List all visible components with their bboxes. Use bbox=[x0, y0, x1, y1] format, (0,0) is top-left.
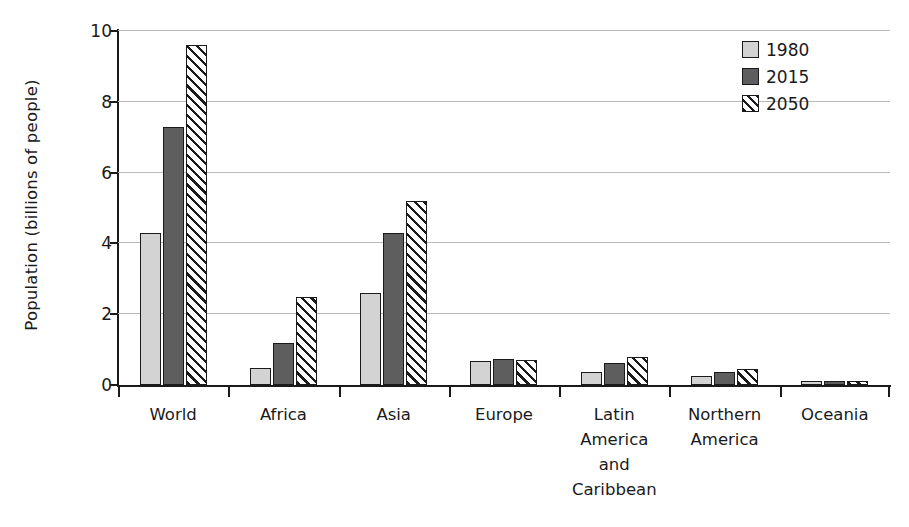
y-axis-tick-marks bbox=[0, 0, 120, 527]
bar bbox=[493, 359, 514, 385]
bar bbox=[847, 381, 868, 385]
population-bar-chart: Population (billions of people) 0246810 … bbox=[0, 0, 909, 527]
bar bbox=[406, 201, 427, 385]
x-axis-label-line: America bbox=[650, 427, 800, 452]
x-axis-label-line: Oceania bbox=[760, 402, 909, 427]
legend-swatch-icon bbox=[742, 41, 759, 58]
bar bbox=[691, 376, 712, 385]
bar bbox=[250, 368, 271, 385]
bar bbox=[627, 357, 648, 385]
bar bbox=[714, 372, 735, 385]
bar-group bbox=[228, 31, 338, 385]
legend-item: 1980 bbox=[742, 36, 892, 63]
legend: 198020152050 bbox=[742, 36, 892, 117]
bar bbox=[581, 372, 602, 385]
bar bbox=[186, 45, 207, 385]
x-tick-mark bbox=[118, 386, 120, 397]
x-tick-mark bbox=[339, 386, 341, 397]
legend-swatch-icon bbox=[742, 68, 759, 85]
y-tick-mark-10 bbox=[110, 30, 117, 32]
bar bbox=[273, 343, 294, 385]
bar bbox=[801, 381, 822, 385]
legend-label: 2050 bbox=[766, 94, 809, 114]
legend-item: 2015 bbox=[742, 63, 892, 90]
x-tick-mark bbox=[559, 386, 561, 397]
y-tick-mark-0 bbox=[110, 384, 117, 386]
bar-group bbox=[339, 31, 449, 385]
x-tick-mark bbox=[449, 386, 451, 397]
x-tick-mark bbox=[888, 386, 890, 397]
x-axis-category-labels: WorldAfricaAsiaEuropeLatinAmericaandCari… bbox=[118, 402, 890, 522]
y-tick-mark-8 bbox=[110, 101, 117, 103]
x-tick-mark bbox=[228, 386, 230, 397]
bar bbox=[737, 369, 758, 385]
x-axis-label-line: Caribbean bbox=[539, 477, 689, 502]
legend-label: 2015 bbox=[766, 67, 809, 87]
bar bbox=[516, 360, 537, 385]
bar bbox=[140, 233, 161, 385]
bar bbox=[296, 297, 317, 385]
y-tick-mark-4 bbox=[110, 242, 117, 244]
bar bbox=[163, 127, 184, 385]
x-tick-mark bbox=[669, 386, 671, 397]
y-tick-mark-6 bbox=[110, 172, 117, 174]
bar-group bbox=[449, 31, 559, 385]
legend-swatch-icon bbox=[742, 95, 759, 112]
x-axis-label: Oceania bbox=[760, 402, 909, 427]
bar bbox=[470, 361, 491, 385]
legend-label: 1980 bbox=[766, 40, 809, 60]
bar-group bbox=[559, 31, 669, 385]
legend-item: 2050 bbox=[742, 90, 892, 117]
x-tick-mark bbox=[780, 386, 782, 397]
y-tick-mark-2 bbox=[110, 313, 117, 315]
bar bbox=[360, 293, 381, 385]
bar bbox=[604, 363, 625, 385]
x-axis-label-line: and bbox=[539, 452, 689, 477]
bar-group bbox=[118, 31, 228, 385]
bar bbox=[824, 381, 845, 385]
bar bbox=[383, 233, 404, 385]
x-axis-tick-marks bbox=[118, 386, 890, 398]
